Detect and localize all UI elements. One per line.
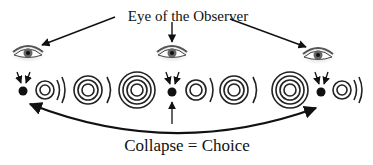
particle-dot: [317, 88, 326, 97]
wave-packets: [36, 72, 362, 108]
particle-dot: [19, 87, 28, 96]
diagram-title: Eye of the Observer: [118, 8, 258, 25]
wave-packet-icon: [36, 77, 65, 103]
collapse-curve-arrow: [30, 104, 316, 133]
wave-packet-icon: [272, 72, 308, 108]
observer-diagram: Eye of the Observer Collapse = Choice: [0, 0, 373, 165]
wave-packet-icon: [220, 76, 257, 104]
wave-packet-icon: [74, 76, 111, 104]
eye-icon: [154, 44, 190, 62]
wave-packet-icon: [186, 78, 213, 102]
diagram-caption: Collapse = Choice: [112, 136, 262, 156]
wave-packet-icon: [333, 77, 362, 103]
particle-dot: [168, 88, 177, 97]
arrow-to-left-eye: [42, 17, 115, 45]
eye-icon: [10, 44, 46, 62]
wave-packet-icon: [119, 72, 155, 108]
eye-icon: [300, 46, 336, 64]
